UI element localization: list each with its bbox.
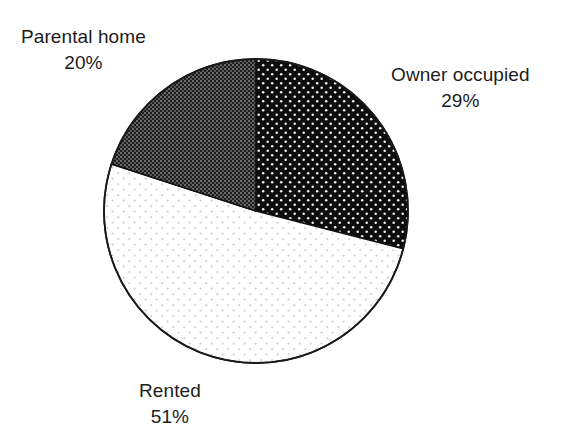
slice-label-owner-occupied-percent: 29% bbox=[391, 88, 530, 114]
pie-slice-group bbox=[104, 59, 408, 363]
slice-label-rented: Rented 51% bbox=[139, 378, 201, 430]
slice-label-owner-occupied-name: Owner occupied bbox=[391, 62, 530, 88]
pie-chart-page: Parental home 20% Owner occupied 29% Ren… bbox=[0, 0, 580, 444]
slice-label-owner-occupied: Owner occupied 29% bbox=[391, 62, 530, 114]
slice-label-rented-percent: 51% bbox=[139, 404, 201, 430]
slice-label-rented-name: Rented bbox=[139, 378, 201, 404]
slice-label-parental-home-percent: 20% bbox=[21, 50, 146, 76]
slice-label-parental-home: Parental home 20% bbox=[21, 24, 146, 76]
slice-label-parental-home-name: Parental home bbox=[21, 24, 146, 50]
